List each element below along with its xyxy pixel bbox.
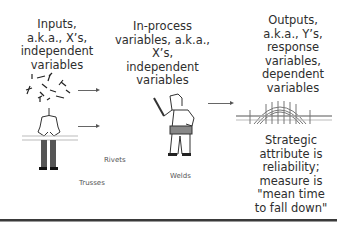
outputs-label: Outputs, a.k.a., Y’s, response variables… <box>248 14 337 95</box>
bottom-divider-shadow <box>0 221 337 222</box>
arch-bridge-icon <box>236 96 332 128</box>
strategic-attribute-note: Strategic attribute is reliability; meas… <box>246 134 336 215</box>
rivets-label: Rivets <box>104 156 126 164</box>
worker-with-tool-icon <box>148 90 210 160</box>
person-with-parts-icon <box>14 70 84 172</box>
in-process-label: In-process variables, a.k.a., X’s, indep… <box>110 20 215 88</box>
process-arrow <box>208 103 232 104</box>
inputs-arrow-top <box>78 90 98 91</box>
inputs-arrow-bottom <box>78 126 98 127</box>
welds-label: Welds <box>170 172 191 180</box>
trusses-label: Trusses <box>79 179 105 187</box>
inputs-label: Inputs, a.k.a., X’s, independent variabl… <box>12 18 102 72</box>
